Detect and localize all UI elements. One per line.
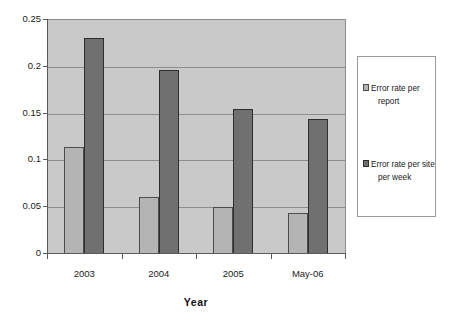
x-axis-tick-mark bbox=[196, 254, 197, 259]
x-axis-category-label: 2004 bbox=[122, 268, 197, 279]
y-axis-tick-mark bbox=[43, 206, 47, 207]
legend-label-series-1: Error rate per siteper week bbox=[371, 158, 435, 184]
bar-2003-series-1 bbox=[84, 38, 104, 253]
x-axis-tick-mark bbox=[345, 254, 346, 259]
legend-swatch-icon-series-1 bbox=[363, 160, 369, 167]
y-axis-tick-label: 0.15 bbox=[0, 108, 41, 118]
y-axis-tick-label: 0.05 bbox=[0, 201, 41, 211]
y-axis-tick-label: 0 bbox=[0, 248, 41, 258]
x-axis-tick-mark bbox=[271, 254, 272, 259]
y-axis-tick-label: 0.2 bbox=[0, 61, 41, 71]
x-axis-title: Year bbox=[0, 296, 392, 308]
bar-2004-series-0 bbox=[139, 197, 159, 253]
bar-2004-series-1 bbox=[159, 70, 179, 253]
x-axis-category-label: May-06 bbox=[271, 268, 346, 279]
legend-swatch-icon-series-0 bbox=[363, 84, 369, 91]
bar-2005-series-0 bbox=[213, 207, 233, 253]
bar-chart: 00.050.10.150.20.25 200320042005May-06 Y… bbox=[0, 0, 456, 330]
x-axis-tick-mark bbox=[122, 254, 123, 259]
y-axis-tick-mark bbox=[43, 159, 47, 160]
y-axis-tick-label: 0.25 bbox=[0, 14, 41, 24]
legend: Error rate perreport Error rate per site… bbox=[357, 56, 436, 217]
legend-item-series-0: Error rate perreport bbox=[363, 82, 435, 108]
x-axis-category-label: 2003 bbox=[47, 268, 122, 279]
y-axis-tick-label: 0.1 bbox=[0, 154, 41, 164]
x-axis-tick-mark bbox=[47, 254, 48, 259]
y-axis-tick-mark bbox=[43, 19, 47, 20]
y-axis-tick-mark bbox=[43, 66, 47, 67]
x-axis-category-label: 2005 bbox=[196, 268, 271, 279]
bar-2005-series-1 bbox=[233, 109, 253, 253]
y-axis-tick-mark bbox=[43, 113, 47, 114]
bar-may-06-series-1 bbox=[308, 119, 328, 253]
bar-2003-series-0 bbox=[64, 147, 84, 253]
legend-label-series-0: Error rate perreport bbox=[371, 82, 420, 108]
bar-may-06-series-0 bbox=[288, 213, 308, 253]
legend-item-series-1: Error rate per siteper week bbox=[363, 158, 435, 184]
y-axis-line bbox=[47, 19, 48, 254]
